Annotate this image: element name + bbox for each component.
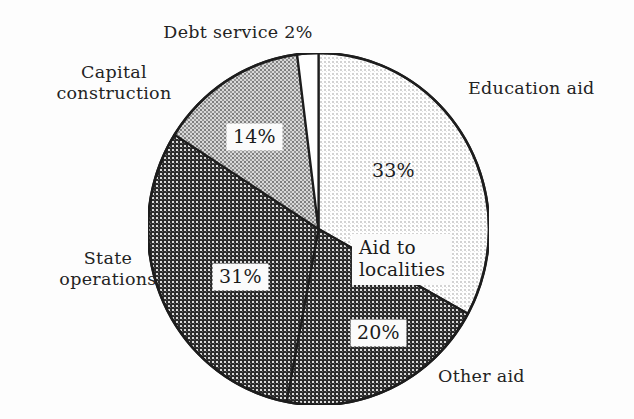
slice-label-debt-service: Debt service 2%	[128, 22, 348, 43]
slice-label-other-aid: Other aid	[438, 366, 598, 387]
pie-slices	[148, 53, 489, 405]
slice-value-education-aid: 33%	[372, 161, 415, 180]
slice-label-state-operations: State operations	[20, 248, 196, 289]
pie-chart-svg	[148, 53, 489, 405]
pie-chart	[148, 53, 489, 405]
pie-chart-figure: Debt service 2% Capital construction Edu…	[0, 0, 634, 419]
slice-label-education-aid: Education aid	[468, 78, 628, 99]
slice-label-capital-construction: Capital construction	[28, 62, 200, 103]
slice-value-other-aid: 20%	[351, 320, 406, 346]
group-label-aid-to-localities: Aid to localities	[352, 234, 452, 285]
slice-value-state-operations: 31%	[213, 264, 268, 290]
slice-value-capital-construction: 14%	[227, 124, 282, 150]
